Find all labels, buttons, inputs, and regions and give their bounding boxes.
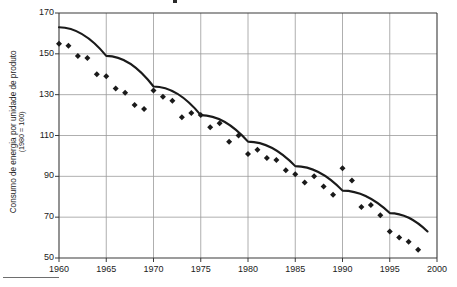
x-tick-label: 1980 bbox=[228, 264, 268, 274]
x-tick-label: 1975 bbox=[181, 264, 221, 274]
gridlines bbox=[59, 13, 437, 258]
x-tick-label: 1970 bbox=[134, 264, 174, 274]
y-tick-label: 50 bbox=[24, 252, 54, 262]
trend-line bbox=[59, 27, 428, 231]
y-tick-label: 110 bbox=[24, 130, 54, 140]
y-tick-label: 150 bbox=[24, 48, 54, 58]
footnote-separator-rule bbox=[3, 277, 59, 278]
cropped-title-fragment bbox=[173, 0, 177, 3]
y-tick-label: 170 bbox=[24, 7, 54, 17]
y-tick-label: 90 bbox=[24, 170, 54, 180]
x-tick-label: 1960 bbox=[39, 264, 79, 274]
data-points bbox=[56, 41, 421, 253]
plot-area bbox=[0, 0, 457, 287]
y-tick-label: 70 bbox=[24, 211, 54, 221]
x-tick-label: 1985 bbox=[275, 264, 315, 274]
x-tick-label: 1990 bbox=[323, 264, 363, 274]
y-axis-label-line1: Consumo de energia por unidade de produt… bbox=[8, 51, 17, 214]
x-tick-label: 1965 bbox=[86, 264, 126, 274]
y-tick-label: 130 bbox=[24, 89, 54, 99]
x-tick-label: 1995 bbox=[370, 264, 410, 274]
x-tick-label: 2000 bbox=[417, 264, 457, 274]
tick-marks bbox=[55, 13, 437, 262]
energy-intensity-chart: Consumo de energia por unidade de produt… bbox=[0, 0, 457, 287]
